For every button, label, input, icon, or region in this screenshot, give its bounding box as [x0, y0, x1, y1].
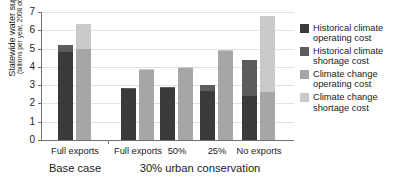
- bar-segment-climatechange-shortage: [139, 69, 154, 70]
- legend-swatch-icon: [300, 70, 309, 79]
- bar-segment-historical-shortage: [160, 87, 175, 88]
- bar-climate-change: [218, 50, 233, 141]
- bar-climate-change: [178, 67, 193, 140]
- y-axis-tick-label: 3: [15, 80, 35, 90]
- axis-section-separator: [108, 140, 109, 144]
- y-axis-tick: [38, 140, 42, 141]
- y-axis-tick-label: 4: [15, 62, 35, 72]
- y-axis-tick: [38, 67, 42, 68]
- y-axis-tick: [38, 30, 42, 31]
- bar-segment-climatechange-operating: [260, 92, 275, 140]
- y-axis-tick: [38, 122, 42, 123]
- bar-segment-climatechange-shortage: [178, 67, 193, 68]
- y-axis-tick-label: 5: [15, 44, 35, 54]
- legend-item-label: Historical climate operating cost: [313, 23, 383, 44]
- bar-historical-climate: [58, 45, 73, 140]
- chart-legend: Historical climate operating costHistori…: [300, 23, 406, 115]
- bar-climate-change: [76, 24, 91, 140]
- legend-swatch-icon: [300, 24, 309, 33]
- bar-climate-change: [260, 16, 275, 140]
- x-axis-section-label: 30% urban conservation: [115, 162, 285, 175]
- plot-area: 01234567Full exportsFull exports50%25%No…: [41, 12, 294, 141]
- bar-segment-historical-operating: [242, 96, 257, 140]
- bar-segment-climatechange-operating: [139, 70, 154, 140]
- y-axis-tick: [38, 49, 42, 50]
- bar-segment-climatechange-shortage: [76, 24, 91, 49]
- bar-group: [121, 12, 155, 140]
- bar-historical-climate: [242, 60, 257, 140]
- bar-segment-historical-operating: [200, 91, 215, 140]
- y-axis-tick: [38, 12, 42, 13]
- legend-swatch-icon: [300, 93, 309, 102]
- bar-segment-historical-operating: [121, 89, 136, 140]
- bar-segment-climatechange-shortage: [218, 50, 233, 51]
- legend-item-label: Climate change operating cost: [313, 69, 378, 90]
- y-axis-tick-label: 0: [15, 135, 35, 145]
- x-axis-section-label: Base case: [30, 162, 120, 175]
- bar-group: [58, 12, 92, 140]
- y-axis-tick-label: 2: [15, 98, 35, 108]
- y-axis-tick-label: 1: [15, 117, 35, 127]
- bar-segment-historical-shortage: [200, 85, 215, 90]
- bar-historical-climate: [121, 88, 136, 140]
- y-axis-tick-label: 6: [15, 25, 35, 35]
- bar-segment-historical-operating: [160, 88, 175, 140]
- bar-segment-historical-shortage: [242, 60, 257, 96]
- legend-item-label: Historical climate shortage cost: [313, 46, 383, 67]
- y-axis-tick: [38, 103, 42, 104]
- bar-segment-climatechange-operating: [178, 68, 193, 140]
- y-axis-tick-label: 7: [15, 7, 35, 17]
- bar-segment-climatechange-operating: [218, 50, 233, 140]
- bar-segment-climatechange-operating: [76, 49, 91, 140]
- bar-segment-historical-shortage: [58, 45, 73, 52]
- bar-historical-climate: [200, 85, 215, 140]
- legend-item: Climate change operating cost: [300, 69, 406, 90]
- y-axis-tick: [38, 85, 42, 86]
- bar-climate-change: [139, 69, 154, 140]
- bar-historical-climate: [160, 87, 175, 140]
- chart-figure: Statewide water supply costs (billions p…: [0, 0, 406, 196]
- bar-segment-climatechange-shortage: [260, 16, 275, 93]
- legend-item: Climate change shortage cost: [300, 92, 406, 113]
- bar-segment-historical-operating: [58, 52, 73, 140]
- legend-item: Historical climate shortage cost: [300, 46, 406, 67]
- bar-group: [160, 12, 194, 140]
- legend-item-label: Climate change shortage cost: [313, 92, 378, 113]
- bar-segment-historical-shortage: [121, 88, 136, 89]
- bar-group: [200, 12, 234, 140]
- legend-swatch-icon: [300, 47, 309, 56]
- legend-item: Historical climate operating cost: [300, 23, 406, 44]
- x-axis-label: No exports: [219, 146, 299, 157]
- bar-group: [242, 12, 276, 140]
